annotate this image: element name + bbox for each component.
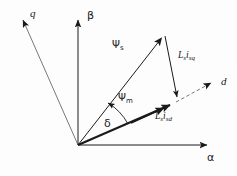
- ls-isd-i-sub: sd: [166, 115, 172, 123]
- vector-label-psi-s: Ψs: [112, 40, 124, 50]
- component-ls-isq: [165, 36, 177, 97]
- ls-isd-L-sub: s: [160, 115, 163, 123]
- diagram-canvas: q β α d Ψs Ψm Lsisq Lsisd δ: [0, 0, 237, 176]
- psi-s-sub: s: [120, 44, 124, 52]
- ls-isq-L-sub: s: [183, 54, 186, 62]
- psi-m-base: Ψ: [118, 92, 126, 103]
- angle-label-delta: δ: [104, 118, 111, 129]
- angle-delta-arc: [108, 103, 128, 124]
- vector-diagram-svg: [0, 0, 237, 176]
- psi-s-base: Ψ: [112, 39, 120, 50]
- axis-d-line: [176, 83, 211, 102]
- axis-label-d: d: [221, 76, 227, 87]
- component-label-ls-isq: Lsisq: [178, 51, 195, 61]
- ls-isq-i-sub: sq: [189, 54, 195, 62]
- axis-label-beta: β: [87, 10, 94, 21]
- axis-label-q: q: [30, 8, 36, 19]
- vector-label-psi-m: Ψm: [118, 93, 133, 103]
- component-label-ls-isd: Lsisd: [155, 112, 172, 122]
- axis-q-line: [23, 20, 78, 145]
- axis-label-alpha: α: [207, 152, 214, 163]
- psi-m-sub: m: [126, 97, 133, 105]
